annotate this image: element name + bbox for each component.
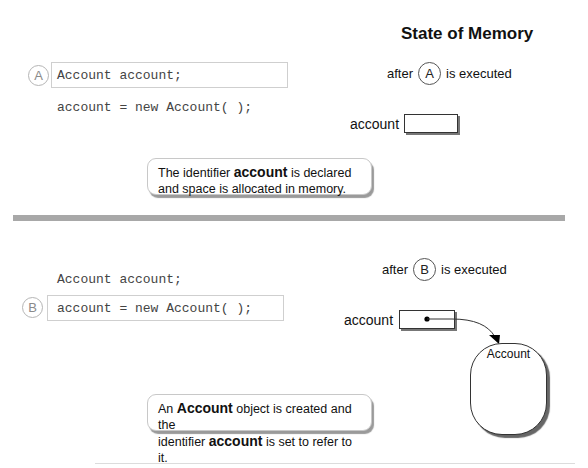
account-object-label: Account — [470, 347, 547, 361]
footer-divider — [95, 463, 575, 464]
note-b: An Account object is created and the ide… — [147, 394, 372, 431]
